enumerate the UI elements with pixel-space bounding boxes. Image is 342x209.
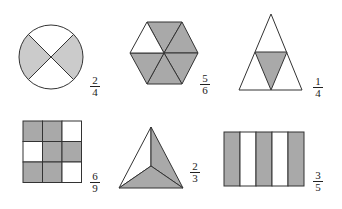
fraction-label-hexagon: 5 6 [199, 74, 211, 95]
grid-cell [23, 162, 43, 183]
grid-cell [23, 142, 43, 163]
grid-cell [43, 121, 63, 142]
stripes-figure [224, 132, 304, 186]
fraction-label-grid: 6 9 [89, 172, 101, 193]
grid-cell [62, 142, 82, 163]
grid-cell [23, 121, 43, 142]
grid-cell [43, 142, 63, 163]
stripe [256, 132, 272, 186]
fraction-label-triangle: 1 4 [312, 77, 324, 98]
denominator: 4 [312, 89, 324, 98]
denominator: 5 [312, 183, 324, 192]
hexagon-figure [130, 22, 198, 84]
numerator: 3 [312, 171, 324, 180]
denominator: 3 [189, 174, 201, 183]
numerator: 2 [89, 76, 101, 85]
stripe [288, 132, 304, 186]
tri-center-figure [119, 127, 183, 188]
denominator: 6 [199, 86, 211, 95]
fraction-label-tri-center: 2 3 [189, 162, 201, 183]
fraction-diagram [0, 0, 342, 209]
stripe [224, 132, 240, 186]
numerator: 2 [189, 162, 201, 171]
fraction-label-circle: 2 4 [89, 76, 101, 97]
numerator: 5 [199, 74, 211, 83]
numerator: 1 [312, 77, 324, 86]
stripe [240, 132, 256, 186]
grid-cell [62, 162, 82, 183]
grid-cell [43, 162, 63, 183]
grid-cell [62, 121, 82, 142]
denominator: 4 [89, 88, 101, 97]
denominator: 9 [89, 184, 101, 193]
fraction-label-stripes: 3 5 [312, 171, 324, 192]
triangle-figure [239, 14, 302, 90]
stripe [272, 132, 288, 186]
numerator: 6 [89, 172, 101, 181]
grid-figure [23, 121, 82, 183]
circle-figure [19, 25, 83, 89]
